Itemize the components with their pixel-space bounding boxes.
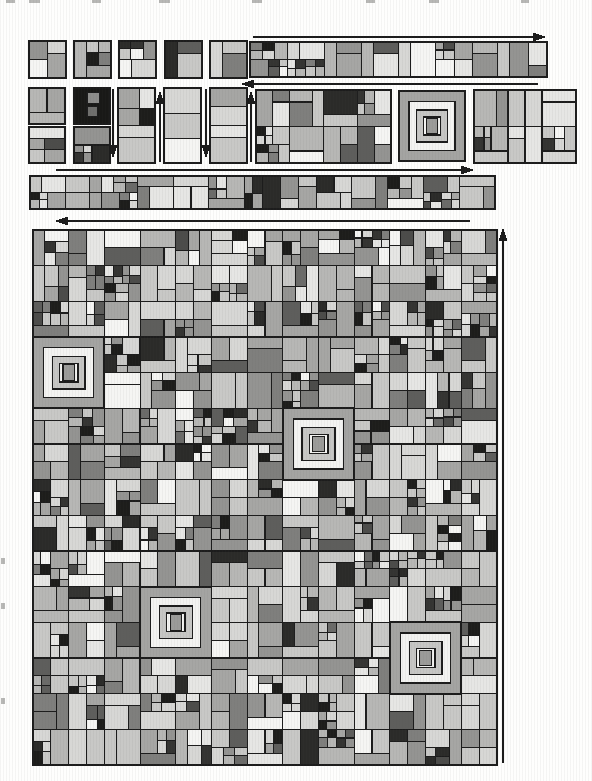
unit-tile xyxy=(33,515,69,551)
page-edge-text-remnant xyxy=(92,0,101,3)
unit-tile xyxy=(319,587,355,623)
unit-tile xyxy=(426,480,462,516)
unit-tile xyxy=(209,176,245,209)
strip-block xyxy=(30,176,495,209)
unit-tile xyxy=(319,551,355,587)
unit-tile xyxy=(324,127,358,164)
unit-tile xyxy=(104,694,140,730)
unit-tile xyxy=(508,90,542,127)
unit-tile xyxy=(461,337,497,373)
unit-tile xyxy=(390,444,426,480)
unit-tile xyxy=(354,480,390,516)
unit-tile xyxy=(354,694,390,730)
unit-tile xyxy=(176,729,212,765)
unit-tile xyxy=(33,587,69,623)
unit-tile xyxy=(119,41,156,78)
unit-tile xyxy=(319,337,355,373)
unit-tile xyxy=(104,337,140,373)
unit-tile xyxy=(247,622,283,658)
unit-tile xyxy=(390,694,426,730)
unit-tile xyxy=(247,408,283,444)
unit-tile xyxy=(461,301,497,337)
unit-tile xyxy=(354,444,390,480)
unit-tile xyxy=(319,622,355,658)
unit-tile xyxy=(33,694,69,730)
unit-tile xyxy=(283,551,319,587)
merged-tile-block xyxy=(474,90,576,163)
unit-tile xyxy=(69,694,105,730)
unit-tile xyxy=(140,266,176,302)
unit-tile xyxy=(399,42,436,77)
unit-tile xyxy=(211,551,247,587)
unit-tile xyxy=(354,266,390,302)
unit-tile xyxy=(140,408,176,444)
unit-tile xyxy=(74,41,111,78)
unit-tile xyxy=(459,176,495,209)
stage1-strip-scan-arrow-right-icon xyxy=(253,33,546,42)
unit-tile xyxy=(426,230,462,266)
unit-tile xyxy=(423,176,459,209)
unit-tile xyxy=(173,176,209,209)
unit-tile xyxy=(390,515,426,551)
page-edge-text-remnant xyxy=(366,0,375,3)
unit-tile xyxy=(33,658,69,694)
unit-tile xyxy=(283,694,319,730)
unit-tile xyxy=(436,42,473,77)
unit-tile xyxy=(426,729,462,765)
unit-tile xyxy=(140,658,176,694)
mosaic-row-scan-arrow-left-icon xyxy=(55,217,470,226)
unit-tile xyxy=(140,551,176,587)
unit-tile xyxy=(473,42,510,77)
unit-tile xyxy=(390,373,426,409)
unit-tile xyxy=(319,658,355,694)
unit-tile xyxy=(33,622,69,658)
unit-tile xyxy=(104,408,140,444)
unit-tile xyxy=(104,587,140,623)
concentric-square-tile xyxy=(33,337,104,408)
unit-tile xyxy=(104,515,140,551)
unit-tile xyxy=(176,551,212,587)
unit-tile xyxy=(390,301,426,337)
unit-tile xyxy=(283,301,319,337)
unit-tile xyxy=(247,230,283,266)
unit-tile xyxy=(33,301,69,337)
unit-tile xyxy=(319,230,355,266)
unit-tile xyxy=(211,444,247,480)
page-edge-text-remnant xyxy=(29,0,40,3)
unit-tile xyxy=(33,230,69,266)
unit-tile xyxy=(69,658,105,694)
strip-block xyxy=(250,42,547,77)
unit-tile xyxy=(283,230,319,266)
unit-tile xyxy=(247,266,283,302)
unit-tile xyxy=(176,694,212,730)
unit-tile xyxy=(283,337,319,373)
unit-tile xyxy=(140,301,176,337)
unit-tile xyxy=(361,42,398,77)
unit-tile xyxy=(176,230,212,266)
unit-tile xyxy=(140,480,176,516)
unit-tile xyxy=(176,658,212,694)
unit-tile xyxy=(426,266,462,302)
unit-tile xyxy=(104,622,140,658)
unit-tile xyxy=(426,694,462,730)
unit-tile xyxy=(211,658,247,694)
unit-tile xyxy=(211,301,247,337)
unit-tile xyxy=(211,480,247,516)
unit-tile xyxy=(33,729,69,765)
unit-tile xyxy=(104,551,140,587)
stage3-strip-scan-arrow-right-icon xyxy=(56,166,474,175)
unit-tile xyxy=(176,373,212,409)
page-edge-text-remnant xyxy=(1,558,5,564)
unit-tile xyxy=(140,515,176,551)
page-edge-text-remnant xyxy=(252,0,262,3)
unit-tile xyxy=(426,515,462,551)
unit-tile xyxy=(211,230,247,266)
unit-tile xyxy=(66,176,102,209)
scanned-figure-page xyxy=(0,0,592,781)
unit-tile xyxy=(461,230,497,266)
unit-tile xyxy=(461,266,497,302)
unit-tile xyxy=(247,480,283,516)
unit-tile xyxy=(474,127,508,164)
unit-tile xyxy=(390,337,426,373)
unit-tile xyxy=(74,127,110,163)
